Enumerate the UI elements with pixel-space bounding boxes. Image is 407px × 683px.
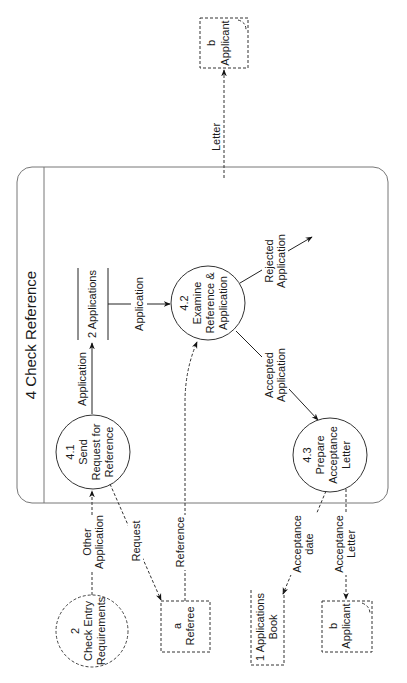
frame-title: 4 Check Reference [22,271,39,399]
flow-label-line-2: Letter [345,530,357,558]
store-label-line-1: 1 Applications [254,593,266,661]
store-label: 2 Applications [86,270,98,338]
flow-label-line-1: Acceptance [333,515,345,572]
flow-other-application: Other Application [80,491,107,595]
process-line-1: Send [77,439,89,465]
flow-label: Reference [174,517,186,568]
process-line-2: Acceptance [327,426,339,483]
process-4-3: 4.3 Prepare Acceptance Letter [293,418,367,492]
flow-label-line-1: Accepted [263,352,275,398]
flow-label-line-1: Rejected [263,239,275,282]
process-line-2: Request for [90,423,102,480]
flow-letter-top: Letter [210,70,224,178]
flow-line-seg2 [288,237,312,251]
flow-label: Letter [210,123,222,151]
process-id: 4.1 [64,444,76,459]
flow-line-seg1 [240,270,262,283]
flow-label-line-2: date [303,533,315,554]
data-flow-diagram: 4 Check Reference b Applicant Letter 2 A… [0,0,407,683]
flow-label: Application [76,352,88,406]
external-entity-applicant-top: b Applicant [200,18,248,68]
flow-label-line-1: Other [81,528,93,556]
flow-line-seg2 [289,389,318,420]
process-line-1: Examine [191,282,203,325]
flow-acceptance-letter: Acceptance Letter [332,489,360,599]
process-line-3: Reference [103,427,115,478]
flow-label: Request [130,521,142,562]
process-4-2: 4.2 Examine Reference & Application [171,266,245,340]
process-line-2: Reference & [204,272,216,334]
entity-name: Applicant [219,20,231,65]
flow-application-to-store: Application [76,343,92,414]
external-process-check-entry: 2 Check Entry Requirements [56,595,128,667]
process-line-1: Prepare [314,435,326,474]
flow-acceptance-date: Acceptance date [283,491,326,594]
data-store-applications: 2 Applications [78,268,108,340]
process-line-3: Application [217,276,229,330]
process-id: 4.2 [178,295,190,310]
process-id: 2 [69,628,81,634]
duplicate-corner-mark [362,603,370,614]
flow-request: Request [110,484,161,600]
external-entity-applicant-bottom: b Applicant [322,601,372,652]
store-label-line-2: Book [267,614,279,640]
flow-label-line-2: Application [275,348,287,402]
flow-label-line-2: Application [93,515,105,569]
duplicate-corner-mark [238,20,246,30]
process-id: 4.3 [301,447,313,462]
entity-name: Referee [184,606,196,645]
data-store-applications-book: 1 Applications Book [251,590,284,665]
flow-label-line-1: Acceptance [291,515,303,572]
flow-application-to-4-2: Application [108,277,170,331]
process-4-1: 4.1 Send Request for Reference [56,415,130,489]
flow-label-line-2: Application [275,234,287,288]
process-line-2: Requirements [95,596,107,665]
flow-label: Application [133,277,145,331]
flow-reference: Reference [172,342,197,601]
process-line-3: Letter [340,441,352,469]
flow-line-seg1 [236,331,262,357]
entity-name: Applicant [340,603,352,648]
flow-rejected-application: Rejected Application [240,234,312,288]
entity-id: a [171,622,183,629]
external-entity-referee: a Referee [161,601,210,652]
process-line-1: Check Entry [82,601,94,661]
entity-id: b [327,623,339,629]
flow-accepted-application: Accepted Application [236,331,318,420]
entity-id: b [205,40,217,46]
